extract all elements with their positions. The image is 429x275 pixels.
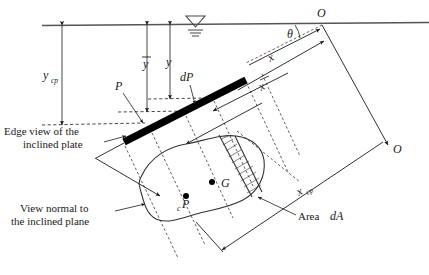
- label-G: G: [221, 176, 230, 190]
- label-ycp-main: y: [42, 68, 49, 82]
- xcp-dashed-line: [237, 131, 300, 182]
- label-P: P: [114, 79, 123, 93]
- projection-line-4: [214, 101, 253, 186]
- free-surface-line: [42, 23, 429, 26]
- label-view-normal: View normal to the inclined plane: [11, 202, 89, 227]
- label-edge-view: Edge view of the inclined plate: [4, 125, 83, 150]
- projection-line-5: [246, 82, 288, 172]
- free-surface-symbol-icon: [186, 16, 205, 36]
- label-O-top: O: [317, 6, 326, 20]
- label-ycp-subscript: cp: [51, 76, 58, 85]
- edge-view-line-1: Edge view of the: [4, 125, 79, 137]
- area-dA-text: Area: [298, 210, 319, 222]
- label-xbar-main: x: [255, 78, 268, 94]
- area-dA-leader: [258, 197, 296, 215]
- view-normal-leader: [115, 204, 145, 211]
- label-ybar: y: [142, 57, 151, 71]
- plane-corner-stub: [196, 222, 223, 252]
- view-normal-line-2: the inclined plane: [11, 215, 89, 227]
- dP-leader: [190, 85, 195, 104]
- label-xcp-subscript: cp: [304, 185, 315, 196]
- plate-bar: [124, 80, 246, 142]
- label-area-dA: Area dA: [298, 209, 344, 223]
- label-y: y: [165, 55, 172, 69]
- theta-reference-dashed: [246, 25, 322, 63]
- free-surface-group: [42, 16, 429, 36]
- P-leader: [123, 93, 143, 123]
- edge-view-line-2: inclined plate: [23, 138, 83, 150]
- inclined-plate-edge-view: [124, 80, 246, 142]
- label-cP: c P: [177, 197, 190, 213]
- projection-line-6: [262, 74, 300, 156]
- plane-right-edge: [322, 25, 388, 145]
- label-cP-P: P: [181, 197, 190, 211]
- area-dA-italic: dA: [330, 209, 344, 223]
- label-O-bottom: O: [393, 142, 402, 156]
- plane-left-short-edge: [96, 143, 124, 158]
- projection-line-2: [152, 133, 205, 245]
- hydrostatic-inclined-plate-figure: y cp y y P dP θ O O x x x cp G c P Edge …: [0, 0, 429, 275]
- centroid-G-dot: [209, 179, 215, 185]
- projection-line-1: [125, 146, 178, 258]
- label-theta: θ: [287, 27, 293, 41]
- x-dimension-upper: [249, 29, 320, 65]
- y-leader-dashed: [148, 98, 205, 99]
- label-dP: dP: [180, 70, 194, 84]
- view-normal-line-1: View normal to: [20, 202, 89, 214]
- plane-left-edge-arrow: [95, 158, 160, 196]
- strip-right-edge: [235, 136, 262, 192]
- label-xcp-main: x: [293, 183, 306, 199]
- label-xcp: x cp: [293, 179, 315, 201]
- label-cP-c: c: [177, 204, 181, 213]
- label-ycp: y cp: [42, 68, 58, 85]
- projection-dashed-lines: [125, 74, 300, 258]
- plate-area-blob: [139, 131, 300, 221]
- label-ybar-main: y: [142, 57, 149, 71]
